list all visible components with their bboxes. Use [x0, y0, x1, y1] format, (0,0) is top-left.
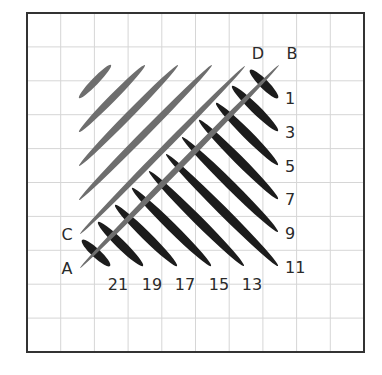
point-label-C: C: [61, 225, 72, 244]
right-label-11: 11: [285, 258, 305, 277]
right-label-5: 5: [285, 157, 295, 176]
bottom-label-19: 19: [142, 275, 162, 294]
black-ellipse-17: [112, 202, 180, 269]
diagram-canvas: ABCD13579112119171513: [0, 0, 382, 375]
gray-ellipse-2: [77, 63, 148, 135]
black-ellipse-5: [213, 100, 281, 168]
point-label-D: D: [252, 44, 264, 63]
gray-ellipse-1: [76, 63, 113, 101]
right-label-1: 1: [285, 89, 295, 108]
bottom-label-17: 17: [175, 275, 195, 294]
bottom-label-15: 15: [209, 275, 229, 294]
point-label-B: B: [287, 44, 298, 63]
right-label-7: 7: [285, 190, 295, 209]
bottom-label-21: 21: [108, 275, 128, 294]
bottom-label-13: 13: [242, 275, 262, 294]
point-label-A: A: [62, 259, 73, 278]
right-label-9: 9: [285, 224, 295, 243]
right-label-3: 3: [285, 123, 295, 142]
black-ellipse-1: [247, 67, 281, 101]
